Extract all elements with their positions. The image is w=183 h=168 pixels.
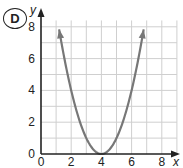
y-axis-arrow-icon xyxy=(38,8,45,17)
y-axis-label: y xyxy=(29,3,37,17)
x-tick-label: 4 xyxy=(98,155,105,168)
tick-labels: 0246802468xy xyxy=(28,3,180,168)
y-tick-label: 6 xyxy=(28,52,35,66)
y-tick-label: 0 xyxy=(28,147,35,161)
parabola-chart: 0246802468xy xyxy=(0,0,183,168)
arrowhead-icon xyxy=(139,29,146,38)
x-tick-label: 6 xyxy=(128,155,135,168)
x-axis-label: x xyxy=(172,155,180,168)
x-tick-label: 0 xyxy=(38,155,45,168)
y-tick-label: 8 xyxy=(28,20,35,34)
arrowhead-icon xyxy=(57,29,64,38)
x-tick-label: 2 xyxy=(68,155,75,168)
y-tick-label: 2 xyxy=(28,115,35,129)
y-tick-label: 4 xyxy=(28,83,35,97)
x-tick-label: 8 xyxy=(158,155,165,168)
